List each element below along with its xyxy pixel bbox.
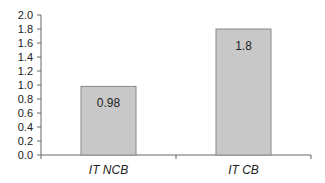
y-tick-label: 0.0: [18, 149, 33, 161]
y-tick-label: 1.2: [18, 65, 33, 77]
bar-value-label: 1.8: [235, 39, 252, 53]
bar-value-label: 0.98: [97, 96, 121, 110]
y-tick-label: 0.2: [18, 135, 33, 147]
y-tick-label: 1.6: [18, 37, 33, 49]
y-axis: 0.00.20.40.60.81.01.21.41.61.82.0: [18, 9, 41, 161]
y-tick-label: 1.4: [18, 51, 33, 63]
bar-chart: 0.00.20.40.60.81.01.21.41.61.82.0 IT NCB…: [0, 0, 325, 183]
x-category-label: IT NCB: [89, 163, 128, 177]
x-category-label: IT CB: [228, 163, 259, 177]
chart-canvas: 0.00.20.40.60.81.01.21.41.61.82.0 IT NCB…: [0, 0, 325, 183]
bars: 0.981.8: [81, 29, 271, 155]
y-tick-label: 1.8: [18, 23, 33, 35]
x-axis: IT NCBIT CB: [41, 155, 311, 177]
y-tick-label: 1.0: [18, 79, 33, 91]
y-tick-label: 0.8: [18, 93, 33, 105]
y-tick-label: 2.0: [18, 9, 33, 21]
y-tick-label: 0.4: [18, 121, 33, 133]
y-tick-label: 0.6: [18, 107, 33, 119]
